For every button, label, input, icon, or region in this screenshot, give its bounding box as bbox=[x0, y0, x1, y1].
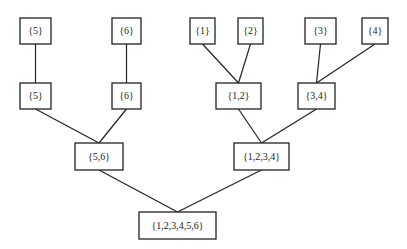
node-t4: {4} bbox=[362, 18, 388, 44]
node-label: {6} bbox=[119, 90, 134, 101]
edge-t1-m12 bbox=[203, 44, 239, 83]
edge-n56-root bbox=[99, 170, 178, 212]
node-label: {3} bbox=[313, 25, 328, 36]
node-label: {1} bbox=[195, 25, 210, 36]
node-label: {3,4} bbox=[305, 90, 327, 101]
node-label: {5} bbox=[28, 90, 43, 101]
edge-t3-m34 bbox=[317, 44, 321, 83]
edge-n1234-root bbox=[178, 170, 262, 212]
node-label: {1,2,3,4,5,6} bbox=[151, 220, 203, 231]
node-label: {1,2} bbox=[227, 90, 249, 101]
node-label: {5,6} bbox=[88, 151, 110, 162]
node-m34: {3,4} bbox=[298, 83, 335, 109]
node-label: {1,2,3,4} bbox=[243, 151, 280, 162]
nodes: {5}{6}{1}{2}{3}{4}{5}{6}{1,2}{3,4}{5,6}{… bbox=[20, 18, 388, 239]
node-m5: {5} bbox=[20, 83, 51, 109]
node-t3: {3} bbox=[305, 18, 336, 44]
edge-m5-n56 bbox=[36, 109, 100, 143]
node-t1: {1} bbox=[190, 18, 215, 44]
node-n1234: {1,2,3,4} bbox=[234, 143, 289, 170]
edge-m12-n1234 bbox=[239, 109, 262, 143]
edge-t2-m12 bbox=[239, 44, 251, 83]
node-m6: {6} bbox=[112, 83, 141, 109]
node-label: {2} bbox=[243, 25, 258, 36]
node-root: {1,2,3,4,5,6} bbox=[139, 212, 216, 239]
node-n56: {5,6} bbox=[75, 143, 123, 170]
edge-m34-n1234 bbox=[262, 109, 317, 143]
node-t2: {2} bbox=[238, 18, 263, 44]
edge-t4-m34 bbox=[317, 44, 376, 83]
node-t6: {6} bbox=[112, 18, 141, 44]
node-label: {5} bbox=[28, 25, 43, 36]
edge-m6-n56 bbox=[99, 109, 127, 143]
node-label: {4} bbox=[368, 25, 383, 36]
merge-tree-diagram: {5}{6}{1}{2}{3}{4}{5}{6}{1,2}{3,4}{5,6}{… bbox=[0, 0, 407, 249]
node-t5: {5} bbox=[20, 18, 51, 44]
edges bbox=[36, 44, 376, 212]
node-label: {6} bbox=[119, 25, 134, 36]
node-m12: {1,2} bbox=[216, 83, 261, 109]
